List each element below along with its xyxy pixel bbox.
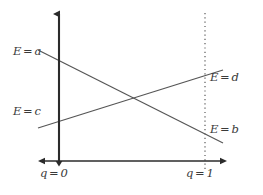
diagram-canvas: E=a E=c E=d E=b q=0 q=1 (0, 0, 263, 195)
label-energy-b: E=b (210, 124, 239, 136)
label-q-1-value: 1 (206, 166, 214, 180)
label-E-a-value: a (34, 44, 41, 58)
label-energy-c: E=c (13, 106, 41, 118)
label-E-b-eq: = (219, 122, 232, 136)
label-E-b-var: E (210, 122, 219, 136)
label-q-1-var: q (186, 166, 194, 180)
label-energy-d: E=d (210, 72, 239, 84)
label-E-a-var: E (13, 44, 22, 58)
label-E-d-value: d (231, 70, 239, 84)
label-q-0-value: 0 (60, 166, 68, 180)
label-E-d-eq: = (219, 70, 232, 84)
x-tick-label-origin: q=0 (40, 168, 68, 180)
label-E-d-var: E (210, 70, 219, 84)
ascending-energy-line (38, 70, 223, 128)
label-q-0-eq: = (48, 166, 61, 180)
x-tick-label-one: q=1 (186, 168, 214, 180)
label-E-c-eq: = (22, 104, 35, 118)
label-E-c-value: c (34, 104, 41, 118)
label-E-a-eq: = (22, 44, 35, 58)
label-q-0-var: q (40, 166, 48, 180)
label-E-b-value: b (231, 122, 239, 136)
label-q-1-eq: = (194, 166, 207, 180)
descending-energy-line (38, 50, 223, 143)
label-E-c-var: E (13, 104, 22, 118)
label-energy-a: E=a (13, 46, 42, 58)
